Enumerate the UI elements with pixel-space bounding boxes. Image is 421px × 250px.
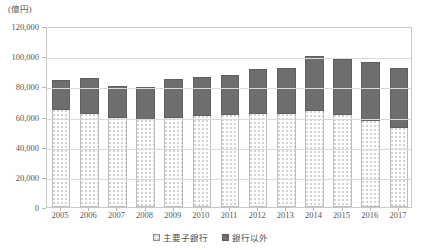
bar-segment-non-bank [80, 78, 99, 113]
gridline [47, 179, 411, 180]
y-tick-label: 120,000 [11, 22, 39, 32]
bar-segment-main-bank [305, 110, 324, 207]
bar-segment-main-bank [52, 109, 71, 207]
bar-group [108, 26, 127, 207]
bar-group [361, 26, 380, 207]
y-tick-label: 100,000 [11, 52, 39, 62]
x-tick-label: 2005 [52, 210, 69, 220]
x-tick-label: 2010 [192, 210, 209, 220]
bar-segment-non-bank [164, 79, 183, 117]
chart-legend: 主要子銀行銀行以外 [0, 231, 421, 243]
x-axis: 2005200620072008200920102011201220132014… [46, 210, 412, 226]
x-tick-label: 2006 [80, 210, 97, 220]
x-tick-label: 2013 [277, 210, 294, 220]
x-tick-label: 2009 [164, 210, 181, 220]
bar-group [136, 26, 155, 207]
legend-item-main-bank[interactable]: 主要子銀行 [153, 231, 208, 243]
legend-swatch-non-bank [222, 234, 229, 241]
gridline [47, 88, 411, 89]
bar-segment-non-bank [249, 69, 268, 114]
legend-item-non-bank[interactable]: 銀行以外 [222, 231, 268, 243]
bar-group [164, 26, 183, 207]
bar-group [52, 26, 71, 207]
bar-segment-main-bank [221, 114, 240, 207]
bar-group [305, 26, 324, 207]
bar-segment-main-bank [80, 113, 99, 207]
x-tick-label: 2017 [389, 210, 406, 220]
bar-group [80, 26, 99, 207]
y-axis: 020,00040,00060,00080,000100,000120,000 [0, 27, 44, 208]
bar-segment-main-bank [390, 127, 409, 207]
x-tick-label: 2011 [221, 210, 238, 220]
bar-group [249, 26, 268, 207]
bar-segment-main-bank [277, 113, 296, 207]
y-tick-label: 40,000 [16, 143, 39, 153]
y-axis-unit-label: (億円) [8, 2, 32, 14]
bar-segment-non-bank [108, 86, 127, 118]
gridline [47, 119, 411, 120]
legend-label: 銀行以外 [232, 231, 268, 243]
bar-segment-non-bank [305, 56, 324, 111]
bars-layer [47, 28, 411, 207]
y-tick-mark [42, 208, 46, 209]
x-tick-label: 2014 [305, 210, 322, 220]
gridline [47, 58, 411, 59]
y-tick-label: 0 [35, 203, 39, 213]
gridline [47, 149, 411, 150]
bar-segment-main-bank [164, 117, 183, 208]
x-tick-label: 2016 [361, 210, 378, 220]
bar-group [277, 26, 296, 207]
bar-segment-main-bank [136, 119, 155, 207]
y-tick-label: 80,000 [16, 82, 39, 92]
stacked-bar-chart: (億円) 020,00040,00060,00080,000100,000120… [0, 0, 421, 250]
y-tick-label: 20,000 [16, 173, 39, 183]
bar-segment-non-bank [136, 87, 155, 119]
bar-segment-non-bank [333, 59, 352, 116]
x-tick-label: 2015 [333, 210, 350, 220]
bar-group [390, 26, 409, 207]
y-tick-label: 60,000 [16, 113, 39, 123]
bar-group [333, 26, 352, 207]
bar-segment-main-bank [108, 117, 127, 207]
bar-segment-non-bank [193, 77, 212, 116]
plot-area [46, 27, 412, 208]
bar-segment-non-bank [277, 68, 296, 114]
bar-segment-main-bank [193, 115, 212, 207]
x-tick-label: 2008 [136, 210, 153, 220]
bar-group [221, 26, 240, 207]
bar-segment-non-bank [221, 75, 240, 116]
legend-swatch-main-bank [153, 234, 160, 241]
bar-segment-main-bank [249, 113, 268, 207]
bar-segment-main-bank [361, 120, 380, 207]
bar-group [193, 26, 212, 207]
bar-segment-main-bank [333, 114, 352, 207]
bar-segment-non-bank [52, 80, 71, 110]
legend-label: 主要子銀行 [163, 231, 208, 243]
bar-segment-non-bank [361, 62, 380, 120]
x-tick-label: 2007 [108, 210, 125, 220]
x-tick-label: 2012 [249, 210, 266, 220]
